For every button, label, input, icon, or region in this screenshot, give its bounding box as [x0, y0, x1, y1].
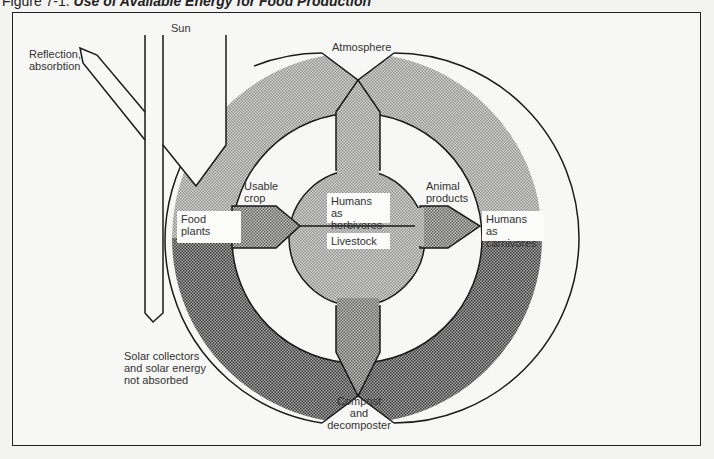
label-sun: Sun	[171, 22, 191, 34]
label-humans-herbivores: Humans as herbivores	[327, 193, 390, 223]
label-food-plants: Food plants	[177, 211, 241, 243]
label-livestock: Livestock	[327, 233, 390, 249]
label-animal-products: Animal products	[426, 180, 468, 204]
label-usable-crop: Usable crop	[244, 180, 278, 204]
label-compost: Compost and decomposter	[322, 395, 396, 431]
label-solar-collectors: Solar collectors and solar energy not ab…	[124, 350, 206, 386]
label-atmosphere: Atmosphere	[332, 41, 391, 53]
reflection-arrow	[80, 48, 145, 140]
label-reflection: Reflection, absorbtion	[29, 48, 81, 72]
label-humans-carnivores: Humans as carnivores	[482, 211, 544, 241]
solar-collectors-arrow	[145, 35, 163, 322]
animal-products-arrow	[420, 206, 480, 248]
